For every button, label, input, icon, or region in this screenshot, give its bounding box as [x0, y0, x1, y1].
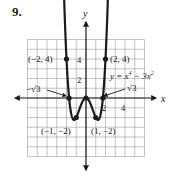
key-point [74, 115, 79, 120]
key-point [83, 95, 88, 100]
tick-y-4: 4 [77, 55, 82, 65]
label-neg-root3: −√3 [26, 84, 41, 94]
key-point [64, 56, 69, 61]
label-pos-root3: √3 [127, 83, 137, 93]
label-point-neg1-neg2: (−1, −2) [41, 126, 71, 136]
label-point-2-4: (2, 4) [110, 54, 130, 64]
key-point [103, 56, 108, 61]
key-point [67, 95, 72, 100]
label-point-neg2-4: (−2, 4) [28, 54, 53, 64]
equation-label: y = x4 − 3x2 [109, 70, 154, 81]
y-axis-label: y [82, 8, 88, 19]
key-point [93, 115, 98, 120]
graph: x y 2 4 2 4 (−2, 4) (2, 4) (−1, −2) (1, … [0, 0, 178, 186]
x-axis-label: x [160, 93, 166, 104]
arrow-pos-root3 [104, 89, 125, 96]
tick-y-2: 2 [77, 75, 81, 85]
label-point-1-neg2: (1, −2) [91, 126, 116, 136]
